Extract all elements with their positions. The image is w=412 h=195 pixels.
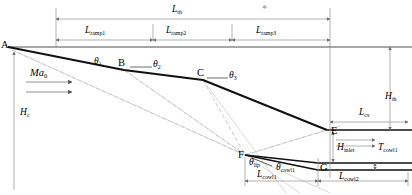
dimension-label-L-cs: Lcs (359, 108, 369, 118)
freestream-mach-label: Ma0 (30, 68, 47, 79)
angle-leader-lines (130, 67, 272, 166)
diagram-canvas (0, 0, 412, 195)
dimension-label-L-ramp1: Lramp1 (85, 26, 105, 36)
inlet-geometry-diagram: A B C E F G Lth Lramp1 Lramp2 Lramp3 Hc … (0, 0, 412, 195)
point-label-F: F (238, 150, 244, 161)
point-label-A: A (1, 40, 9, 51)
dimension-label-H-th: Hth (385, 92, 396, 102)
point-label-G: G (320, 163, 328, 174)
angle-label-theta1: θ1 (94, 57, 102, 67)
dimension-sub-H-th: th (392, 96, 397, 102)
dimension-sub-L-cowl2: cowl2 (344, 176, 358, 182)
freestream-mach-base: Ma (30, 67, 44, 78)
dimension-sub-H-c: c (27, 112, 30, 118)
point-label-E: E (331, 126, 337, 137)
angle-sub-theta1: 1 (99, 61, 102, 67)
dimension-base-H-th: H (385, 91, 392, 101)
angle-sub-theta-lip: lip (254, 162, 260, 168)
dimension-label-L-ramp2: Lramp2 (166, 26, 186, 36)
dimension-sub-L-cowl1: cowl1 (262, 174, 276, 180)
point-label-C: C (197, 68, 204, 79)
dimension-base-H-c: H (20, 107, 27, 117)
angle-sub-theta3: 3 (234, 75, 237, 81)
dimension-label-L-cowl2: Lcowl2 (339, 172, 359, 182)
shock-line-C-F (203, 80, 245, 155)
angle-glyph-theta-cowl1: θ (276, 162, 281, 172)
angle-sub-theta-cowl1: cowl1 (281, 167, 295, 173)
dimension-sub-L-cs: cs (364, 112, 369, 118)
dimension-label-L-th: Lth (172, 5, 182, 15)
angle-glyph-theta2: θ (153, 59, 158, 69)
angle-label-theta-lip: θlip (249, 158, 260, 168)
angle-sub-theta2: 2 (158, 64, 161, 70)
point-label-B: B (118, 58, 125, 69)
dimension-sub-H-inlet: inlet (344, 147, 354, 153)
compression-ramp-surface (8, 47, 327, 130)
ramp-polyline (8, 47, 327, 130)
cowl-outer-surface (245, 155, 412, 163)
freestream-flow-arrows (26, 82, 72, 92)
angle-label-theta2: θ2 (153, 60, 161, 70)
angle-label-theta3: θ3 (229, 71, 237, 81)
dimension-base-H-inlet: H (337, 142, 344, 152)
dimension-sub-L-ramp2: ramp2 (171, 30, 186, 36)
dimension-label-L-cowl1: Lcowl1 (257, 170, 277, 180)
dimension-label-H-inlet: Hinlet (337, 143, 354, 153)
angle-glyph-theta-lip: θ (249, 157, 254, 167)
angle-glyph-theta3: θ (229, 70, 234, 80)
angle-label-theta-cowl1: θcowl1 (276, 163, 295, 173)
asterisk-annotation: * (262, 4, 267, 14)
dimension-sub-L-th: th (177, 9, 182, 15)
dimension-sub-L-ramp1: ramp1 (90, 30, 105, 36)
dimension-label-H-c: Hc (20, 108, 29, 118)
freestream-mach-sub: 0 (44, 72, 47, 79)
dimension-sub-L-ramp3: ramp3 (261, 30, 276, 36)
angle-glyph-theta1: θ (94, 56, 99, 66)
dimension-label-T-cowl1: Tcowl1 (378, 143, 398, 153)
cowl-body (245, 155, 412, 170)
dimension-label-L-ramp3: Lramp3 (256, 26, 276, 36)
dimension-sub-T-cowl1: cowl1 (383, 147, 397, 153)
